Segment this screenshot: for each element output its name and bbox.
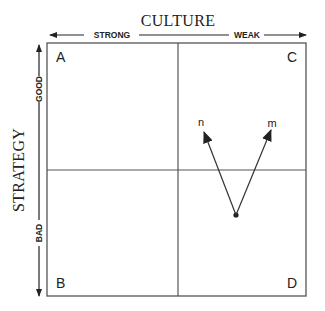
y-axis-arrow: GOOD BAD <box>34 45 44 296</box>
y-axis-bad-label: BAD <box>34 224 44 242</box>
quadrant-b-label: B <box>56 275 65 291</box>
x-axis-arrow: STRONG WEAK <box>50 30 306 40</box>
quadrant-d-label: D <box>287 275 297 291</box>
vector-m-arrow-icon <box>236 130 271 215</box>
y-axis-good-label: GOOD <box>34 76 44 102</box>
vector-m-label: m <box>267 117 276 129</box>
x-axis-strong-label: STRONG <box>94 30 131 40</box>
x-axis-weak-label: WEAK <box>234 30 261 40</box>
vector-n-arrow-icon <box>204 132 236 215</box>
movement-vectors: n m <box>198 116 277 218</box>
quadrant-c-label: C <box>287 49 297 65</box>
quadrant-a-label: A <box>56 49 66 65</box>
x-axis-title: CULTURE <box>141 12 215 29</box>
vector-n-label: n <box>198 116 204 128</box>
culture-strategy-matrix: CULTURE STRONG WEAK GOOD BAD STRATEGY A … <box>0 0 325 311</box>
y-axis-title: STRATEGY <box>10 128 27 212</box>
